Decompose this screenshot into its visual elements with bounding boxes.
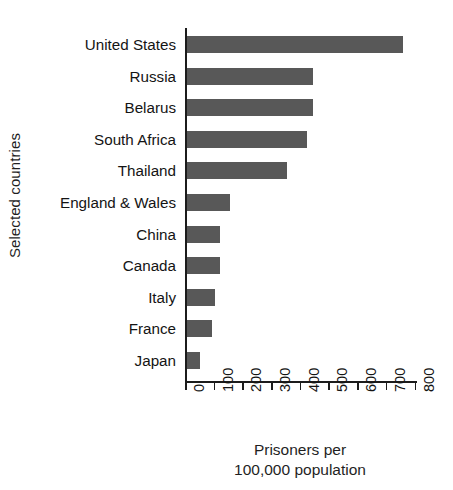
x-axis-title-line-2: 100,000 population xyxy=(155,460,445,480)
category-label: South Africa xyxy=(94,131,176,148)
x-axis-tick xyxy=(214,383,216,390)
category-label: Canada xyxy=(123,257,176,274)
y-axis-title-text: Selected countries xyxy=(7,132,24,257)
x-axis-title: Prisoners per 100,000 population xyxy=(155,440,445,480)
x-axis-title-line-1: Prisoners per xyxy=(155,440,445,460)
bar-england-wales xyxy=(187,194,230,211)
bar-france xyxy=(187,320,213,337)
bar-russia xyxy=(187,68,313,85)
bar-italy xyxy=(187,289,216,306)
y-axis-category-labels: United StatesRussiaBelarusSouth AfricaTh… xyxy=(30,28,182,376)
bar-south-africa xyxy=(187,131,307,148)
x-axis-tick xyxy=(300,383,302,390)
bar-china xyxy=(187,226,220,243)
y-axis-title: Selected countries xyxy=(0,0,30,390)
x-axis-tick xyxy=(357,383,359,390)
category-label: England & Wales xyxy=(60,194,176,211)
bar-canada xyxy=(187,257,220,274)
x-axis-tick-label: 700 xyxy=(392,368,408,392)
bar-thailand xyxy=(187,162,287,179)
category-label: China xyxy=(136,226,176,243)
x-axis-tick-label: 200 xyxy=(248,368,264,392)
bar-chart-figure: Selected countries United StatesRussiaBe… xyxy=(0,0,453,490)
x-axis-tick xyxy=(271,383,273,390)
plot-area xyxy=(185,28,430,381)
x-axis-tick xyxy=(415,383,417,390)
category-label: Japan xyxy=(135,352,176,369)
bar-united-states xyxy=(187,36,404,53)
x-axis-tick-labels: 0100200300400500600700800 xyxy=(185,392,430,438)
category-label: United States xyxy=(85,36,176,53)
x-axis-tick-label: 600 xyxy=(363,368,379,392)
x-axis-tick xyxy=(185,383,187,390)
category-label: Thailand xyxy=(118,162,176,179)
category-label: Russia xyxy=(130,68,176,85)
category-label: Belarus xyxy=(125,99,177,116)
x-axis-tick-label: 800 xyxy=(421,368,437,392)
x-axis-tick-label: 500 xyxy=(334,368,350,392)
x-axis-tick xyxy=(242,383,244,390)
x-axis-tick-label: 300 xyxy=(277,368,293,392)
bar-japan xyxy=(187,352,201,369)
category-label: France xyxy=(129,320,176,337)
bar-belarus xyxy=(187,99,313,116)
x-axis-tick xyxy=(328,383,330,390)
x-axis-tick-label: 400 xyxy=(306,368,322,392)
x-axis-tick xyxy=(386,383,388,390)
x-axis-tick-label: 0 xyxy=(191,384,207,392)
x-axis-tick-label: 100 xyxy=(220,368,236,392)
category-label: Italy xyxy=(148,289,176,306)
